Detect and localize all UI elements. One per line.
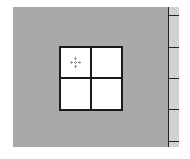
grid-divider-horizontal [61, 77, 121, 79]
ruler-tick [169, 15, 179, 16]
grid-cell-bottom-left[interactable] [61, 79, 90, 108]
ruler-tick [169, 109, 179, 110]
ruler-tick [169, 141, 179, 142]
vertical-ruler[interactable] [168, 7, 179, 147]
grid-cell-bottom-right[interactable] [92, 79, 121, 108]
ruler-tick [169, 78, 179, 79]
ruler-tick [169, 47, 179, 48]
move-crosshair-icon [70, 57, 81, 68]
grid-2x2[interactable] [59, 46, 123, 111]
grid-cell-top-right[interactable] [92, 48, 121, 77]
